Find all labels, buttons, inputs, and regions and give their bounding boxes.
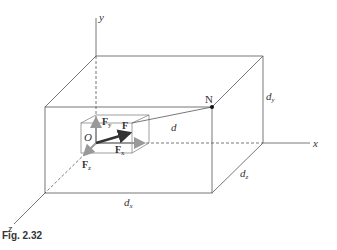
f-label: F	[122, 120, 128, 131]
origin-label: O	[84, 131, 92, 143]
distance-label: d	[171, 121, 177, 133]
z-axis	[14, 143, 96, 224]
x-axis-label: x	[312, 137, 318, 149]
f-vector	[96, 133, 130, 143]
point-n	[210, 105, 214, 109]
dx-label: dx	[124, 196, 134, 210]
point-n-label: N	[205, 93, 213, 105]
dy-label: dy	[266, 90, 276, 104]
large-box	[45, 56, 263, 193]
fz-label: Fz	[82, 159, 91, 172]
dz-label: dz	[240, 167, 249, 181]
fy-label: Fy	[102, 116, 112, 129]
fx-label: Fx	[115, 144, 125, 157]
y-axis-label: y	[98, 11, 104, 23]
figure-caption: Fig. 2.32	[2, 230, 42, 241]
vector-diagram: y x z N O d F Fy Fx Fz dx dy dz	[0, 0, 337, 250]
